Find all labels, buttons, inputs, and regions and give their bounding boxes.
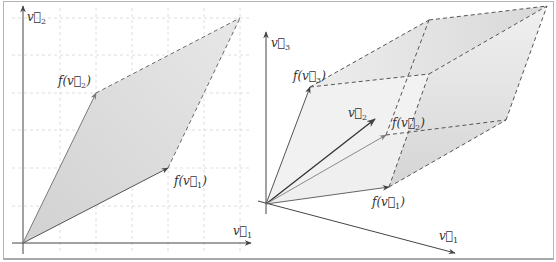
x-axis-label: v⃗1 (233, 224, 252, 240)
v3-axis-label: v⃗3 (271, 36, 290, 52)
f-v2-label: f(v⃗2) (57, 74, 91, 90)
f-v2-label: f(v⃗2) (391, 116, 425, 132)
v1-axis-label: v⃗1 (439, 229, 458, 245)
parallelogram-fill (23, 18, 240, 243)
f-v3-label: f(v⃗3) (292, 69, 326, 85)
f-v1-label: f(v⃗1) (371, 195, 405, 211)
right-panel-3d: v⃗3 v⃗2 v⃗1 f(v⃗3) f(v⃗2) f(v⃗1) (258, 6, 547, 253)
v1-axis (258, 201, 455, 253)
f-v1-label: f(v⃗1) (173, 174, 207, 190)
y-axis-label: v⃗2 (27, 10, 46, 26)
figure-canvas: v⃗2 v⃗1 f(v⃗2) f(v⃗1) (0, 0, 556, 262)
left-panel-2d: v⃗2 v⃗1 f(v⃗2) f(v⃗1) (12, 6, 252, 254)
